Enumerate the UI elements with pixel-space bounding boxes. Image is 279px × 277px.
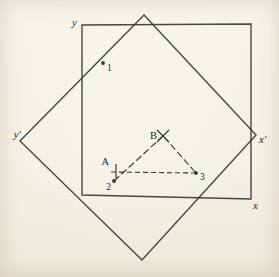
axis-label-x: x: [252, 199, 258, 211]
vertex-B-label: B: [150, 130, 157, 141]
axis-label-x-prime: x′: [258, 133, 267, 145]
point-3-dot: [194, 171, 198, 175]
axis-label-y: y: [71, 16, 77, 28]
outer-square: [82, 24, 251, 199]
dashed-line-2: [114, 137, 162, 181]
point-1-label: 1: [107, 63, 112, 73]
point-3-label: 3: [200, 172, 205, 182]
point-2-dot: [112, 179, 116, 183]
point-2-label: 2: [106, 182, 111, 192]
rotated-axes-diagram: yxy′x′123BA: [0, 0, 279, 277]
figure-paper: yxy′x′123BA: [0, 0, 279, 277]
rotated-square: [20, 15, 256, 260]
vertex-A-label: A: [101, 156, 109, 167]
axis-label-y-prime: y′: [13, 128, 22, 140]
point-1-dot: [101, 61, 105, 65]
